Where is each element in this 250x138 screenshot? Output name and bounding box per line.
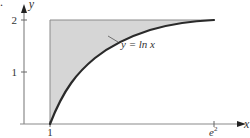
bullet-mark: . (0, 0, 3, 9)
x-tick-label-1: 1 (47, 126, 53, 138)
y-tick-label-2: 2 (12, 14, 18, 26)
y-axis-label: y (28, 0, 35, 11)
x-tick-label-e2-sup: 2 (214, 125, 218, 133)
chart-canvas: . y 2 1 1 e2 x y = ln x (0, 0, 250, 138)
y-tick-label-1: 1 (12, 66, 18, 78)
y-axis-arrow-icon (21, 4, 27, 13)
curve-label: y = ln x (120, 38, 155, 50)
x-tick-label-e2: e2 (209, 125, 218, 138)
x-axis-label: x (243, 117, 250, 131)
